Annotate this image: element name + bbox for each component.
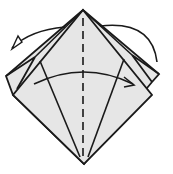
origami-diagram [0, 0, 173, 174]
arrow-back-head-icon [12, 36, 22, 49]
diagram-svg [0, 0, 173, 174]
